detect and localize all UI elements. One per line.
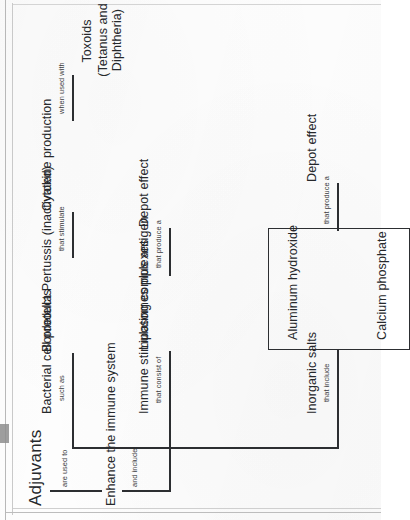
linker-and-include: and include bbox=[131, 449, 139, 487]
branch-stub-isc bbox=[169, 415, 171, 449]
branch-stub-bacterial bbox=[72, 415, 74, 449]
connector-inorganic-to-box bbox=[337, 349, 339, 415]
connector-bordetella-to-cytokine bbox=[72, 212, 74, 258]
node-enhance-immune-system: Enhance the immune system bbox=[104, 342, 118, 506]
linker-that-produce-a-isc: that produce a bbox=[155, 220, 163, 268]
linker-when-used-with: when used with bbox=[58, 62, 66, 114]
node-cytokine-production: Cytokine production bbox=[40, 99, 54, 211]
trunk-spine bbox=[72, 447, 338, 449]
connector-enhance-to-trunk bbox=[122, 490, 170, 492]
node-toxoids-line2: (Tetanus and Diphtheria) bbox=[96, 0, 124, 96]
node-root-adjuvants: Adjuvants bbox=[26, 430, 45, 506]
linker-that-consist-of: that consist of bbox=[155, 357, 163, 403]
trunk-stem bbox=[169, 448, 171, 492]
node-calcium-phosphate: Calcium phosphate bbox=[375, 231, 389, 340]
linker-that-include: that include bbox=[323, 364, 331, 402]
linker-such-as: such as bbox=[58, 375, 66, 401]
node-aluminum-hydroxide: Aluminum hydroxide bbox=[286, 225, 300, 340]
node-liposomes-plus-antigen: Liposomes plus antigen bbox=[137, 216, 151, 350]
node-toxoids-line1: Toxoids bbox=[80, 6, 94, 76]
linker-are-used-to: are used to bbox=[61, 449, 69, 487]
connector-box-to-depot bbox=[337, 183, 339, 231]
node-depot-effect-isc: Depot effect bbox=[137, 159, 151, 227]
connector-liposomes-to-depot bbox=[169, 228, 171, 276]
connector-bacterial-to-bordetella bbox=[72, 353, 74, 415]
connector-isc-to-liposomes bbox=[169, 351, 171, 415]
linker-that-stimulate: that stimulate bbox=[58, 206, 66, 251]
connector-cytokine-to-toxoids bbox=[72, 75, 74, 121]
branch-stub-inorganic bbox=[337, 415, 339, 449]
connector-root-to-enhance bbox=[50, 490, 102, 492]
linker-that-produce-a-salts: that produce a bbox=[323, 176, 331, 224]
node-depot-effect-salts: Depot effect bbox=[305, 114, 319, 182]
